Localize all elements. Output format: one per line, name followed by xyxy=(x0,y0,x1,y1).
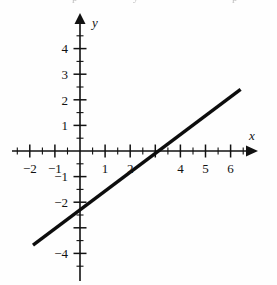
x-tick-label--2: −2 xyxy=(23,161,37,176)
x-tick-label-4: 4 xyxy=(177,161,184,176)
coordinate-plane-chart: −2 −1 1 2 4 5 6 4 3 2 1 −1 −2 −4 y x xyxy=(0,0,277,285)
x-tick-label-5: 5 xyxy=(202,161,209,176)
x-tick-label-1: 1 xyxy=(102,161,109,176)
y-tick-label-4: 4 xyxy=(62,41,69,56)
axes-group xyxy=(12,13,258,281)
x-tick-label-2: 2 xyxy=(127,161,134,176)
y-axis-label: y xyxy=(90,15,98,30)
data-series-line xyxy=(33,89,241,245)
y-tick-label-3: 3 xyxy=(62,67,69,82)
figure-container: p y p xyxy=(0,0,277,285)
y-axis-arrowhead xyxy=(75,13,86,24)
x-tick-label-6: 6 xyxy=(227,161,234,176)
y-tick-label--1: −1 xyxy=(54,169,68,184)
y-tick-label-2: 2 xyxy=(62,93,69,108)
axis-name-labels: y x xyxy=(90,15,255,143)
x-axis-arrowhead xyxy=(246,146,258,157)
y-tick-label--4: −4 xyxy=(54,246,68,261)
y-tick-label--2: −2 xyxy=(54,195,68,210)
line-y-equals-three-quarters-x-minus-three xyxy=(33,89,241,245)
y-tick-label-1: 1 xyxy=(62,118,69,133)
x-axis-label: x xyxy=(248,128,255,143)
